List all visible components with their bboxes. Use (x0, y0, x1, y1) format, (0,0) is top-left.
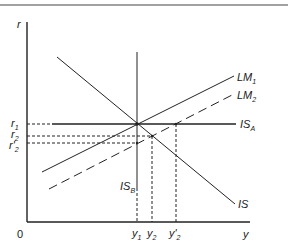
is-b-label: ISB (120, 180, 135, 194)
lm2-is-b-point (136, 142, 138, 144)
is-a-label: ISA (240, 118, 255, 132)
y-prime-2-label: y'2 (168, 227, 181, 241)
origin-label: 0 (17, 228, 23, 240)
y1-label: y1 (131, 227, 142, 241)
lm2-is-point (151, 135, 153, 137)
is-curve (57, 57, 235, 204)
lm2-is-a-point (175, 123, 177, 125)
lm2-curve (49, 94, 234, 189)
y-axis-label: r (17, 18, 22, 30)
equilibrium-point (135, 122, 139, 126)
lm2-label: LM2 (237, 89, 256, 103)
lm1-label: LM1 (237, 71, 256, 85)
y2-label: y2 (146, 227, 157, 241)
is-lm-diagram: r y 0 LM1 LM2 ISA ISB IS r1 r2 r'2 y1 y2… (0, 0, 288, 249)
x-axis-label: y (242, 228, 250, 240)
is-label: IS (238, 198, 249, 210)
